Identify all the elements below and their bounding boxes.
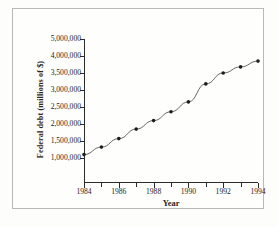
data-point-marker	[187, 100, 191, 104]
x-axis-title: Year	[84, 199, 258, 208]
y-axis-tick-mark	[80, 124, 84, 125]
y-axis-tick-mark	[80, 107, 84, 108]
y-axis-tick-mark	[80, 73, 84, 74]
data-point-marker	[204, 82, 208, 86]
plot-area	[84, 39, 258, 183]
x-axis-tick-label: 1992	[216, 187, 231, 196]
x-axis-tick-label: 1984	[76, 187, 91, 196]
data-point-marker	[117, 137, 121, 141]
data-series-federal-debt	[84, 39, 258, 183]
x-axis-tick-labels: 198419861988199019921994	[84, 187, 258, 199]
y-axis-tick-label: 1,500,000	[29, 137, 81, 145]
y-axis-tick-label: 4,000,000	[29, 52, 81, 60]
data-point-marker	[169, 110, 173, 114]
x-axis-tick-label: 1986	[111, 187, 126, 196]
data-point-marker	[221, 71, 225, 75]
figure-frame: Federal debt (millions of $) 5,000,0004,…	[12, 8, 264, 209]
y-axis-tick-mark	[80, 56, 84, 57]
x-axis-tick-label: 1988	[146, 187, 161, 196]
data-point-marker	[152, 119, 156, 123]
data-point-marker	[239, 65, 243, 69]
data-point-marker	[256, 59, 260, 63]
y-axis-tick-label: 5,000,000	[29, 35, 81, 43]
y-axis-tick-labels: 5,000,0004,000,0003,500,0003,000,0002,50…	[29, 37, 81, 161]
y-axis-tick-mark	[80, 141, 84, 142]
y-axis-tick-label: 2,500,000	[29, 103, 81, 111]
y-axis-tick-mark	[80, 158, 84, 159]
y-axis-tick-label: 3,500,000	[29, 69, 81, 77]
y-axis-tick-label: 3,000,000	[29, 86, 81, 94]
x-axis-tick-label: 1990	[181, 187, 196, 196]
data-point-marker	[100, 145, 104, 149]
y-axis-tick-label: 2,000,000	[29, 120, 81, 128]
data-point-marker	[134, 127, 138, 131]
series-line	[84, 61, 258, 155]
y-axis-tick-mark	[80, 90, 84, 91]
y-axis-tick-label: 1,000,000	[29, 154, 81, 162]
data-point-marker	[82, 153, 86, 157]
y-axis-tick-mark	[80, 39, 84, 40]
figure-container: Federal debt (millions of $) 5,000,0004,…	[0, 0, 278, 227]
x-axis-tick-label: 1994	[250, 187, 265, 196]
